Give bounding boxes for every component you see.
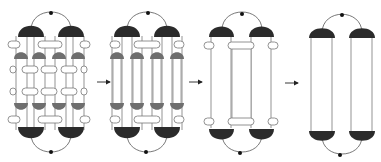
diagram-canvas	[0, 0, 381, 162]
stage-4-panel	[309, 13, 375, 157]
top-dot	[49, 11, 53, 15]
process-diagram	[0, 0, 381, 162]
stage-3-panel	[204, 12, 278, 155]
bottom-dot	[49, 150, 53, 154]
stage-2-panel	[110, 11, 184, 154]
stage-1-panel	[8, 11, 90, 154]
